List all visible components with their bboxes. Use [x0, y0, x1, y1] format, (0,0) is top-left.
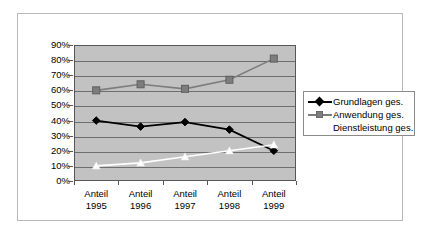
legend-key-square-icon	[307, 109, 333, 121]
y-axis-tick-mark	[68, 151, 73, 152]
x-axis-tick-mark	[207, 181, 208, 185]
x-axis-tick-label-line2: 1995	[74, 200, 118, 212]
x-axis-tick-label-line1: Anteil	[74, 188, 118, 200]
data-point-marker	[137, 123, 145, 131]
data-point-marker	[137, 81, 144, 88]
legend-marker-swatch	[316, 124, 324, 131]
legend-marker-swatch	[315, 96, 325, 106]
x-axis-tick-label-line2: 1996	[118, 200, 162, 212]
data-point-marker	[226, 126, 234, 134]
y-axis-tick-mark	[68, 60, 73, 61]
x-axis-tick-mark	[252, 181, 253, 185]
legend-marker-swatch	[316, 111, 323, 118]
data-point-marker	[270, 55, 277, 62]
x-axis-tick-label: Anteil1995	[74, 188, 118, 220]
y-axis-tick-label: 90%	[36, 40, 70, 49]
y-axis-tick-label: 20%	[36, 146, 70, 155]
data-point-marker	[226, 76, 233, 83]
x-axis-tick-label-line1: Anteil	[163, 188, 207, 200]
y-axis-tick-label: 50%	[36, 100, 70, 109]
x-axis-tick-label: Anteil1998	[207, 188, 251, 220]
y-axis-tick-label: 10%	[36, 161, 70, 170]
y-axis-tick-label: 60%	[36, 85, 70, 94]
legend-key-triangle-icon	[307, 122, 333, 134]
data-point-marker	[92, 117, 100, 125]
figure-frame: 0%10%20%30%40%50%60%70%80%90% Anteil1995…	[17, 13, 403, 221]
y-axis-tick-mark	[68, 166, 73, 167]
legend-item: Anwendung ges.	[307, 108, 410, 121]
legend-item-label: Grundlagen ges.	[333, 96, 403, 108]
data-point-marker	[93, 87, 100, 94]
y-axis-tick-mark	[68, 45, 73, 46]
x-axis-tick-mark	[74, 181, 75, 185]
series-grundlagen-ges	[92, 117, 277, 155]
data-point-marker	[181, 118, 189, 126]
x-axis-tick-label-line1: Anteil	[207, 188, 251, 200]
x-axis-tick-labels: Anteil1995Anteil1996Anteil1997Anteil1998…	[74, 188, 296, 220]
y-axis-tick-mark	[68, 75, 73, 76]
y-axis-tick-mark	[68, 181, 73, 182]
x-axis-tick-label: Anteil1997	[163, 188, 207, 220]
x-axis-tick-label-line2: 1998	[207, 200, 251, 212]
chart-legend: Grundlagen ges.Anwendung ges.Dienstleist…	[303, 91, 415, 136]
legend-key-diamond-icon	[307, 96, 333, 108]
y-axis-tick-mark	[68, 121, 73, 122]
y-axis-tick-label: 0%	[36, 176, 70, 185]
data-point-marker	[182, 85, 189, 92]
y-axis-tick-mark	[68, 90, 73, 91]
y-axis-tick-mark	[68, 136, 73, 137]
x-axis-tick-mark	[163, 181, 164, 185]
legend-item: Grundlagen ges.	[307, 95, 410, 108]
x-axis-tick-label-line2: 1999	[252, 200, 296, 212]
x-axis-tick-mark	[296, 181, 297, 185]
y-axis-tick-label: 30%	[36, 131, 70, 140]
x-axis-tick-label: Anteil1999	[252, 188, 296, 220]
x-axis-tick-label-line2: 1997	[163, 200, 207, 212]
y-axis-tick-label: 80%	[36, 55, 70, 64]
legend-item-label: Anwendung ges.	[333, 109, 404, 121]
x-axis-tick-mark	[118, 181, 119, 185]
y-axis-tick-mark	[68, 105, 73, 106]
x-axis-tick-label-line1: Anteil	[252, 188, 296, 200]
y-axis-tick-label: 70%	[36, 70, 70, 79]
legend-item: Dienstleistung ges.	[307, 121, 410, 134]
x-axis-tick-label: Anteil1996	[118, 188, 162, 220]
y-axis-tick-labels: 0%10%20%30%40%50%60%70%80%90%	[34, 45, 70, 181]
data-series-layer	[74, 45, 296, 181]
chart-figure: 0%10%20%30%40%50%60%70%80%90% Anteil1995…	[0, 0, 422, 234]
x-axis-tick-label-line1: Anteil	[118, 188, 162, 200]
legend-item-label: Dienstleistung ges.	[333, 122, 413, 134]
y-axis-tick-label: 40%	[36, 116, 70, 125]
series-anwendung-ges	[93, 55, 278, 94]
series-dienstleistung-ges	[92, 141, 278, 169]
